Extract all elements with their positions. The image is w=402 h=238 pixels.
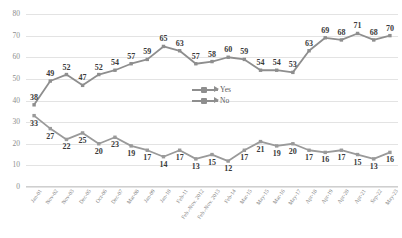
data-point-label: 15 [354,158,362,167]
x-axis-tick-label: Dec-05 [77,188,91,205]
data-point-marker [32,103,35,106]
data-point-label: 15 [208,158,216,167]
data-point-label: 54 [273,58,281,67]
y-axis-tick-label: 50 [0,75,20,83]
data-point-label: 47 [79,73,87,82]
x-axis-tick-label: May-17 [287,188,302,206]
y-axis-tick-label: 40 [0,97,20,105]
data-point-marker [356,153,359,156]
data-point-label: 58 [208,50,216,59]
x-axis-tick-label: Jan-10 [159,188,172,204]
data-point-label: 20 [95,147,103,156]
data-point-marker [275,69,278,72]
data-point-marker [49,127,52,130]
data-point-label: 33 [30,119,38,128]
data-point-label: 12 [224,164,232,173]
data-point-label: 16 [386,155,394,164]
data-point-marker [243,58,246,61]
data-point-marker [307,149,310,152]
data-point-marker [178,49,181,52]
data-point-marker [113,136,116,139]
data-point-marker [178,149,181,152]
data-point-label: 17 [337,153,345,162]
legend-item-yes[interactable]: Yes [192,84,231,95]
data-point-label: 65 [159,34,167,43]
data-point-label: 13 [192,162,200,171]
data-point-marker [162,45,165,48]
x-axis-tick-label: Apr-19 [320,188,334,205]
data-point-label: 25 [79,136,87,145]
data-point-marker [307,49,310,52]
data-point-marker [113,69,116,72]
data-point-marker [81,131,84,134]
legend-label: No [220,96,229,105]
data-point-label: 60 [224,45,232,54]
data-point-marker [340,149,343,152]
y-axis-tick-label: 60 [0,53,20,61]
data-point-label: 68 [370,28,378,37]
y-axis-tick-label: 30 [0,118,20,126]
y-axis-tick-label: 10 [0,161,20,169]
data-point-marker [340,38,343,41]
data-point-marker [291,142,294,145]
data-point-marker [226,159,229,162]
data-point-marker [97,142,100,145]
x-axis-tick-label: Mar-15 [239,188,253,205]
y-axis-tick-label: 0 [0,183,20,191]
data-point-marker [372,38,375,41]
data-point-marker [324,151,327,154]
data-point-label: 17 [143,153,151,162]
data-point-label: 21 [257,145,265,154]
data-point-label: 63 [176,39,184,48]
data-point-marker [49,79,52,82]
data-point-label: 52 [62,63,70,72]
data-point-label: 70 [386,24,394,33]
data-point-marker [324,36,327,39]
data-point-label: 53 [289,60,297,69]
data-point-marker [162,155,165,158]
data-point-marker [356,32,359,35]
data-point-label: 59 [143,47,151,56]
data-point-label: 49 [46,69,54,78]
data-point-label: 57 [127,52,135,61]
data-point-marker [372,157,375,160]
data-point-label: 14 [159,160,167,169]
y-axis-tick-label: 80 [0,10,20,18]
x-axis-tick-label: Mar-08 [126,188,140,205]
x-axis-tick-label: Oct-06 [94,188,108,204]
data-point-marker [194,62,197,65]
chart-title [0,0,402,3]
x-axis-tick-label: Feb-14 [223,188,237,204]
chart-container: 01020304050607080 3849524752545759656357… [0,0,402,238]
data-point-marker [146,58,149,61]
x-axis-tick-label: Jan-09 [143,188,156,204]
data-point-marker [259,140,262,143]
data-point-marker [65,138,68,141]
legend-item-no[interactable]: No [192,95,231,106]
data-point-label: 17 [305,153,313,162]
legend-label: Yes [220,85,231,94]
data-point-label: 59 [240,47,248,56]
x-axis-tick-label: Mar-16 [271,188,285,205]
line-marker-icon [192,85,218,94]
y-axis-tick-label: 70 [0,32,20,40]
data-point-marker [129,144,132,147]
x-axis-tick-label: Apr-18 [304,188,318,205]
data-point-label: 52 [95,63,103,72]
data-point-label: 20 [289,147,297,156]
data-point-marker [259,69,262,72]
chart-legend: Yes No [192,84,231,106]
x-axis-tick-label: May-15 [254,188,269,206]
data-point-marker [146,149,149,152]
data-point-marker [65,73,68,76]
x-axis-tick-label: Nov-02 [44,188,59,205]
data-point-label: 22 [62,142,70,151]
x-axis-tick-label: Apr-20 [336,188,350,205]
x-axis-tick-label: Dec-07 [110,188,124,205]
x-axis-tick-label: Jan-01 [30,188,43,204]
data-point-marker [210,153,213,156]
x-axis-tick-label: Apr-21 [352,188,366,205]
data-point-marker [129,62,132,65]
data-point-label: 13 [370,162,378,171]
data-point-label: 16 [321,155,329,164]
